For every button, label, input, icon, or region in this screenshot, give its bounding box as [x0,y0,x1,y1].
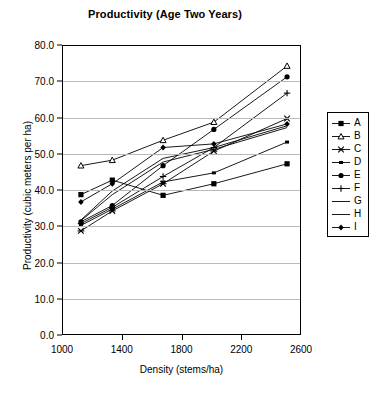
chart-title: Productivity (Age Two Years) [0,8,330,20]
gridline [63,226,300,227]
legend-marker-icon [331,194,351,207]
data-point-open-triangle [284,63,290,68]
series-C [78,116,291,234]
data-point-filled-diamond [78,199,84,205]
gridline [63,190,300,191]
series-E [78,74,289,224]
x-tick-mark [122,335,123,340]
y-axis-title: Productivity (cubic meters per ha) [22,81,33,311]
data-point-cross-x [78,228,85,234]
legend-marker-icon [331,129,351,142]
y-tick-label: 80.0 [35,40,54,51]
legend-label: D [351,155,361,168]
x-tick-label: 1400 [111,344,133,355]
y-tick-label: 60.0 [35,112,54,123]
x-tick-mark [182,335,183,340]
data-point-plus [338,185,344,191]
plot-area [62,45,301,335]
y-tick-label: 70.0 [35,76,54,87]
legend-label: F [351,181,360,194]
legend-item-A[interactable]: A [331,116,366,129]
legend-marker-icon [331,116,351,129]
legend-label: I [351,220,357,233]
data-point-filled-circle [211,127,216,132]
data-point-small-square [212,171,216,174]
legend-label: C [351,142,361,155]
data-point-filled-square [284,161,289,166]
legend-item-C[interactable]: C [331,142,366,155]
y-tick-label: 10.0 [35,293,54,304]
legend-item-I[interactable]: I [331,220,366,233]
x-tick-label: 1000 [51,344,73,355]
legend-marker-icon [331,142,351,155]
legend-item-E[interactable]: E [331,168,366,181]
y-tick-label: 40.0 [35,185,54,196]
gridline [63,118,300,119]
legend-label: B [351,129,361,142]
data-point-open-triangle [109,157,115,162]
x-tick-label: 2200 [230,344,252,355]
series-A [78,161,289,198]
series-line [81,77,287,222]
data-point-filled-diamond [338,225,344,231]
gridline [63,81,300,82]
y-tick-label: 0.0 [40,330,54,341]
legend-item-B[interactable]: B [331,129,366,142]
data-point-filled-square [78,192,83,197]
data-point-open-triangle [211,119,217,124]
legend-marker-icon [331,220,351,233]
legend-label: E [351,168,361,181]
data-point-plus [284,90,290,96]
data-point-filled-square [160,193,165,198]
series-lines [63,46,302,336]
legend-label: G [351,194,362,207]
legend-item-H[interactable]: H [331,207,366,220]
legend-item-G[interactable]: G [331,194,366,207]
data-point-plus [160,173,166,179]
legend-label: H [351,207,361,220]
data-point-filled-square [338,121,343,126]
x-tick-label: 1800 [170,344,192,355]
data-point-small-square [339,161,343,164]
chart-container: Productivity (Age Two Years) 0.010.020.0… [0,0,376,399]
legend-label: A [351,116,361,129]
x-axis-title: Density (stems/ha) [62,364,301,375]
y-tick-label: 50.0 [35,148,54,159]
x-tick-label: 2600 [290,344,312,355]
legend-marker-icon [331,155,351,168]
legend-item-D[interactable]: D [331,155,366,168]
x-tick-mark [241,335,242,340]
gridline [63,154,300,155]
series-F [78,90,291,227]
data-point-small-square [285,141,289,144]
data-point-filled-circle [338,173,343,178]
data-point-filled-circle [284,74,289,79]
legend-marker-icon [331,181,351,194]
data-point-small-square [161,180,165,183]
legend-marker-icon [331,207,351,220]
data-point-cross-x [338,147,345,153]
data-point-filled-square [211,181,216,186]
y-tick-label: 30.0 [35,221,54,232]
data-point-filled-circle [160,163,165,168]
data-point-filled-diamond [160,145,166,151]
gridline [63,299,300,300]
legend-item-F[interactable]: F [331,181,366,194]
chart-legend: ABCDEFGHI [327,112,369,237]
gridline [63,263,300,264]
legend-marker-icon [331,168,351,181]
series-B [78,63,290,168]
y-tick-label: 20.0 [35,257,54,268]
